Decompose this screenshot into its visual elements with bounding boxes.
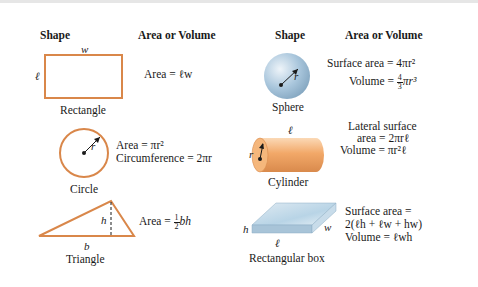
triangle-height-label: h	[101, 214, 107, 226]
circle-name: Circle	[70, 183, 98, 195]
cylinder-radius-label: r	[249, 148, 253, 160]
header-shape-left: Shape	[40, 29, 70, 41]
box-surface-formula: 2(ℓh + ℓw + hw)	[345, 218, 422, 231]
sphere-volume-suffix: πr³	[403, 75, 417, 87]
rectangle-name: Rectangle	[60, 104, 106, 116]
cylinder-volume-formula: Volume = πr²ℓ	[340, 144, 406, 157]
box-height-label: h	[243, 223, 249, 235]
rectangle-length-label: ℓ	[35, 70, 40, 82]
cylinder-name: Cylinder	[268, 176, 308, 188]
rectangle-width-label: w	[81, 43, 88, 55]
header-shape-right: Shape	[275, 29, 305, 41]
triangle-base-label: b	[84, 240, 90, 252]
page-top-rule	[0, 0, 478, 3]
box-length-label: ℓ	[275, 237, 280, 249]
box-width-label: w	[324, 221, 331, 233]
box-name: Rectangular box	[249, 252, 325, 264]
sphere-surface-formula: Surface area = 4πr²	[327, 57, 415, 70]
cylinder-shape-icon	[248, 134, 328, 176]
circle-radius-label: r	[91, 140, 95, 152]
header-area-right: Area or Volume	[345, 29, 423, 41]
triangle-shape-icon	[36, 198, 140, 240]
circle-circumference-formula: Circumference = 2πr	[116, 152, 212, 165]
box-surface-label: Surface area =	[345, 205, 412, 218]
header-area-left: Area or Volume	[138, 29, 216, 41]
sphere-name: Sphere	[272, 101, 304, 113]
triangle-formula-suffix: bh	[180, 215, 192, 227]
rectangle-area-formula: Area = ℓw	[144, 68, 192, 81]
sphere-radius-label: r	[294, 70, 298, 82]
sphere-volume-prefix: Volume =	[349, 75, 397, 87]
box-volume-formula: Volume = ℓwh	[345, 231, 412, 244]
rectangle-shape-icon	[44, 54, 124, 100]
circle-area-formula: Area = πr²	[116, 139, 164, 152]
triangle-name: Triangle	[66, 253, 105, 265]
triangle-formula-prefix: Area =	[139, 215, 174, 227]
sphere-shape-icon	[261, 52, 313, 100]
circle-shape-icon	[57, 126, 111, 180]
cylinder-length-label: ℓ	[288, 124, 293, 136]
triangle-area-formula: Area = 12bh	[139, 214, 191, 231]
sphere-volume-formula: Volume = 43πr³	[349, 74, 417, 91]
